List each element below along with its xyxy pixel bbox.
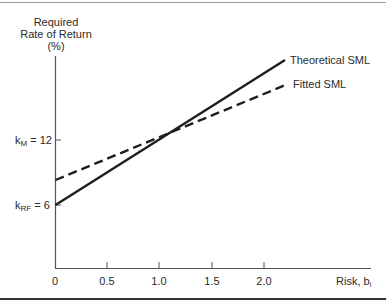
x-tick-label-0.5: 0.5 [99,275,114,287]
y-axis-label-line1: Required [34,16,79,28]
y-axis-label-line3: (%) [47,40,64,52]
theoretical-sml-line [56,60,286,205]
fitted-sml-label: Fitted SML [293,78,346,90]
y-tick-label-km: kM = 12 [15,134,52,148]
x-tick-label-2.0: 2.0 [256,275,271,287]
theoretical-sml-label: Theoretical SML [290,54,370,66]
x-tick-label-1.5: 1.5 [204,275,219,287]
sml-chart: Required Rate of Return (%) kM = 12 kRF … [0,0,386,306]
x-tick-label-0: 0 [52,275,58,287]
x-axis-label: Risk, bi [336,275,372,288]
y-axis-label-line2: Rate of Return [20,28,92,40]
y-tick-label-krf: kRF = 6 [15,199,50,213]
x-tick-label-1.0: 1.0 [151,275,166,287]
